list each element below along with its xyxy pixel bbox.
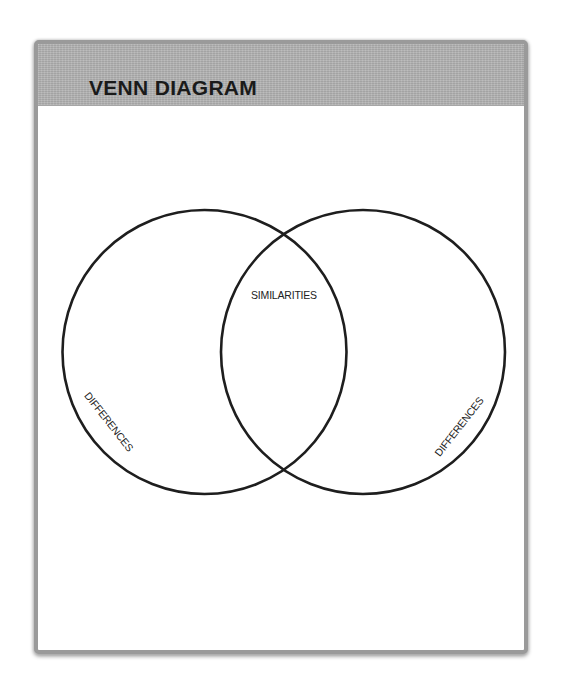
venn-diagram: SIMILARITIES DIFFERENCES DIFFERENCES <box>0 0 562 685</box>
left-differences-label: DIFFERENCES <box>82 390 136 454</box>
right-set-circle <box>221 210 505 494</box>
left-set-circle <box>63 210 347 494</box>
right-differences-label: DIFFERENCES <box>432 394 486 458</box>
similarities-label: SIMILARITIES <box>251 289 317 301</box>
